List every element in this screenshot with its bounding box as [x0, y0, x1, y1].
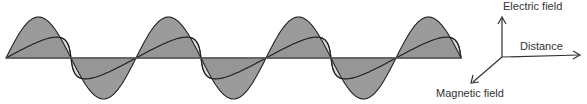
- magnetic-arrowhead-icon: [471, 75, 479, 83]
- magnetic-field-label: Magnetic field: [436, 87, 504, 99]
- magnetic-axis-arrow: [473, 57, 502, 82]
- wave-group: [6, 17, 461, 99]
- distance-axis-arrow: [502, 55, 579, 57]
- electric-field-label: Electric field: [503, 0, 562, 12]
- distance-label: Distance: [520, 40, 563, 52]
